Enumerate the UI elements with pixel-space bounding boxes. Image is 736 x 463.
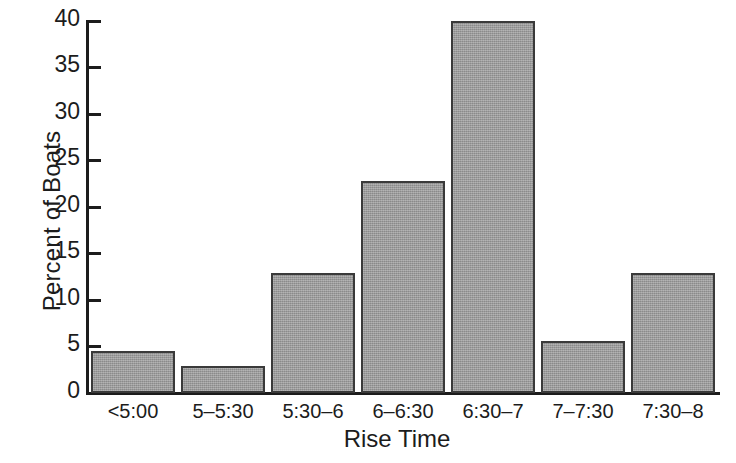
bar-slot (178, 21, 268, 393)
bar (181, 366, 265, 393)
bar-series (88, 21, 718, 393)
x-axis-tick-label: 5–5:30 (178, 399, 268, 423)
bar-slot (628, 21, 718, 393)
x-axis-title: Rise Time (0, 425, 736, 453)
y-axis-tick-label: 20 (20, 193, 80, 216)
bar-chart-figure: Percent of Boats 0510152025303540 <5:005… (0, 0, 736, 463)
bar-slot (268, 21, 358, 393)
x-axis-tick-label: 5:30–6 (268, 399, 358, 423)
x-axis-tick-label: 6–6:30 (358, 399, 448, 423)
y-axis-tick-label: 40 (20, 7, 80, 30)
bar (451, 21, 535, 393)
y-axis-tick-label: 25 (20, 146, 80, 169)
bar (361, 181, 445, 393)
bar (541, 341, 625, 393)
y-axis-tick-label: 5 (20, 332, 80, 355)
bar (271, 273, 355, 393)
plot-area: 0510152025303540 (88, 21, 718, 393)
y-axis-tick-label: 35 (20, 53, 80, 76)
x-axis-tick-label: 7–7:30 (538, 399, 628, 423)
y-axis-tick-label: 30 (20, 100, 80, 123)
bar-slot (88, 21, 178, 393)
y-axis-tick-label: 10 (20, 286, 80, 309)
y-axis-tick-label: 15 (20, 239, 80, 262)
x-axis-tick-label: 7:30–8 (628, 399, 718, 423)
x-axis-tick-label: 6:30–7 (448, 399, 538, 423)
bar-slot (358, 21, 448, 393)
x-axis-tick-label: <5:00 (88, 399, 178, 423)
bar-slot (448, 21, 538, 393)
bar (91, 351, 175, 393)
y-axis-tick-label: 0 (20, 379, 80, 402)
bar (631, 273, 715, 393)
bar-slot (538, 21, 628, 393)
